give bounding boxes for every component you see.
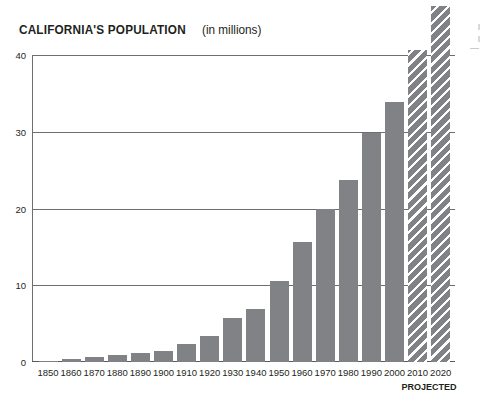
x-tick-label-1890: 1890	[130, 367, 151, 378]
x-tick-label-1850: 1850	[37, 367, 58, 378]
chart-title: CALIFORNIA'S POPULATION (in millions)	[19, 21, 265, 37]
bar-1860	[62, 359, 81, 362]
x-tick-label-1980: 1980	[338, 367, 359, 378]
x-tick-label-1990: 1990	[361, 367, 382, 378]
x-tick-label-1860: 1860	[61, 367, 82, 378]
y-tick-label-20: 20	[15, 203, 26, 214]
chart-figure: CALIFORNIA'S POPULATION (in millions) 01…	[0, 0, 489, 402]
bar-1990	[362, 133, 381, 362]
x-tick-label-2000: 2000	[384, 367, 405, 378]
bar-series	[32, 55, 455, 362]
x-tick-label-2020: 2020	[430, 367, 451, 378]
bar-1890	[131, 353, 150, 362]
bar-1920	[200, 336, 219, 362]
bar-1940	[246, 309, 265, 362]
scan-artifact-mark-upper	[478, 24, 480, 30]
x-tick-label-1970: 1970	[315, 367, 336, 378]
x-tick-label-1950: 1950	[268, 367, 289, 378]
bar-1910	[177, 344, 196, 362]
scan-artifact-tick	[470, 48, 479, 49]
scan-artifact-mark-lower	[478, 36, 480, 42]
chart-title-subtitle: (in millions)	[202, 24, 261, 37]
x-tick-label-1960: 1960	[292, 367, 313, 378]
bar-2000	[385, 102, 404, 362]
bar-1960	[293, 242, 312, 362]
x-tick-label-1930: 1930	[222, 367, 243, 378]
y-tick-label-40: 40	[15, 50, 26, 61]
bar-1880	[108, 355, 127, 362]
y-tick-label-30: 30	[15, 126, 26, 137]
plot-area: 010203040	[32, 55, 455, 362]
x-tick-label-2010: 2010	[407, 367, 428, 378]
bar-1950	[270, 281, 289, 362]
bar-1980	[339, 180, 358, 362]
x-tick-label-1870: 1870	[84, 367, 105, 378]
x-tick-label-1900: 1900	[153, 367, 174, 378]
x-tick-label-1910: 1910	[176, 367, 197, 378]
y-tick-label-10: 10	[15, 280, 26, 291]
bar-2020-projected	[431, 6, 450, 362]
bar-1970	[316, 209, 335, 363]
x-tick-label-1940: 1940	[245, 367, 266, 378]
projected-annotation: PROJECTED	[402, 381, 457, 392]
bar-1850	[39, 361, 58, 362]
chart-title-main: CALIFORNIA'S POPULATION	[19, 24, 186, 37]
x-tick-label-1880: 1880	[107, 367, 128, 378]
bar-1900	[154, 351, 173, 363]
bar-1870	[85, 357, 104, 362]
x-tick-label-1920: 1920	[199, 367, 220, 378]
bar-2010-projected	[408, 50, 427, 362]
y-tick-label-0: 0	[21, 357, 26, 368]
bar-1930	[223, 318, 242, 362]
